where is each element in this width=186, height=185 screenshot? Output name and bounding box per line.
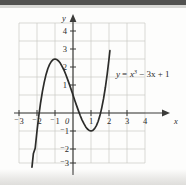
y-tick-label-neg3: ⁻3 xyxy=(60,158,69,168)
cubic-function-plot: ⁻3 ⁻2 ⁻1 1 2 3 4 4 3 2 1 ⁻1 ⁻2 ⁻3 0 x y … xyxy=(0,0,186,185)
equation-rest: − 3x + 1 xyxy=(139,69,169,79)
y-tick-label-1: 1 xyxy=(63,80,67,90)
x-axis-label: x xyxy=(173,116,178,126)
x-tick-label-neg3: ⁻3 xyxy=(14,116,23,126)
grid-horizontal-lines xyxy=(19,23,145,163)
origin-label: 0 xyxy=(65,116,70,126)
cubic-curve-graph xyxy=(32,51,110,167)
y-axis-arrowhead xyxy=(70,14,77,22)
equation-equals: = xyxy=(122,69,127,79)
x-tick-label-neg1: ⁻1 xyxy=(50,116,59,126)
x-tick-label-4: 4 xyxy=(143,116,148,126)
y-tick-label-neg2: ⁻2 xyxy=(60,144,69,154)
scan-artifact-bottom-smudge xyxy=(0,169,186,185)
equation-exponent: 3 xyxy=(133,69,137,75)
x-tick-label-2: 2 xyxy=(107,116,111,126)
svg-text:y=x3− 3x + 1: y=x3− 3x + 1 xyxy=(115,69,169,79)
grid-vertical-lines xyxy=(19,23,145,163)
equation-annotation: y=x3− 3x + 1 xyxy=(115,69,169,79)
y-tick-label-neg1: ⁻1 xyxy=(60,126,69,136)
y-tick-label-3: 3 xyxy=(63,44,67,54)
y-axis-label: y xyxy=(61,13,66,23)
y-tick-label-4: 4 xyxy=(63,26,68,36)
graph-figure: ⁻3 ⁻2 ⁻1 1 2 3 4 4 3 2 1 ⁻1 ⁻2 ⁻3 0 x y … xyxy=(0,0,186,185)
equation-lhs: y xyxy=(115,69,120,79)
x-axis-arrowhead xyxy=(162,110,170,117)
x-tick-label-1: 1 xyxy=(89,116,93,126)
x-tick-label-3: 3 xyxy=(125,116,129,126)
y-axis-tick-labels: 4 3 2 1 ⁻1 ⁻2 ⁻3 xyxy=(60,26,69,168)
